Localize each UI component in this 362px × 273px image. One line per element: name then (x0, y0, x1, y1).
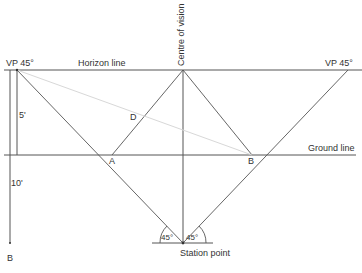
point-b-bottom-label: B (7, 254, 13, 263)
angle-right-label: 45° (186, 234, 198, 242)
dimension-5-label: 5' (19, 111, 26, 120)
vp-right-label: VP 45° (325, 59, 353, 68)
angle-arc-right (199, 226, 206, 243)
vp-left-label: VP 45° (6, 59, 34, 68)
point-a-label: A (109, 157, 115, 166)
dimension-10-label: 10' (11, 179, 23, 188)
sp-to-vp-left (17, 70, 183, 243)
sp-to-vp-right (183, 70, 348, 243)
cv-to-a (112, 70, 183, 155)
b-bottom-dot (9, 242, 11, 244)
point-d-label: D (130, 113, 137, 122)
station-point-label: Station point (180, 249, 230, 258)
horizon-line-label: Horizon line (78, 59, 126, 68)
point-b-ground-label: B (248, 157, 254, 166)
angle-left-label: 45° (161, 234, 173, 242)
centre-of-vision-label: Centre of vision (177, 3, 186, 66)
ground-line-label: Ground line (308, 144, 355, 153)
station-point-dot (182, 242, 185, 245)
vp-left-dot (16, 69, 18, 71)
